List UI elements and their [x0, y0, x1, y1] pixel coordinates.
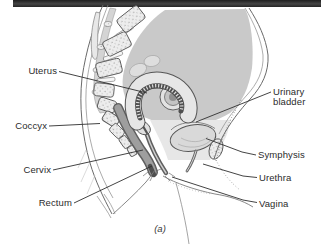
- label-symphysis: Symphysis: [258, 150, 318, 160]
- label-vagina: Vagina: [259, 199, 309, 209]
- label-urethra: Urethra: [259, 173, 309, 183]
- coccyx-leader-line: [49, 124, 100, 127]
- label-rectum: Rectum: [20, 198, 72, 208]
- label-urinary-bladder: Urinary bladder: [273, 87, 313, 107]
- vagina-leader-line: [172, 177, 257, 203]
- urethra-leader-line: [203, 164, 257, 178]
- label-cervix: Cervix: [10, 165, 51, 175]
- anatomy-illustration: [0, 0, 321, 246]
- label-coccyx: Coccyx: [10, 121, 47, 131]
- perineum-outline: [113, 170, 253, 244]
- figure-caption: (a): [140, 223, 180, 234]
- textbook-figure-page: Uterus Coccyx Cervix Rectum Urinary blad…: [0, 0, 321, 246]
- label-uterus: Uterus: [10, 66, 57, 76]
